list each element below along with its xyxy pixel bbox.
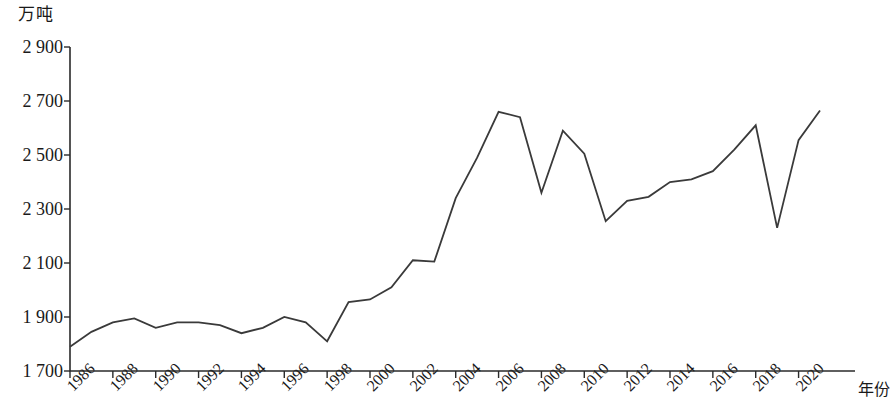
x-axis-ticks bbox=[70, 371, 799, 378]
data-series-line bbox=[70, 110, 820, 346]
y-axis-ticks bbox=[64, 47, 70, 371]
axes bbox=[64, 47, 855, 378]
